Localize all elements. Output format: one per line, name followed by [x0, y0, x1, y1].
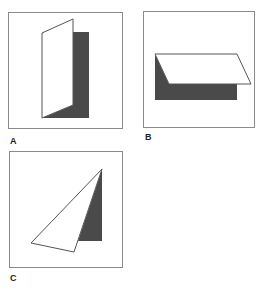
triangle-sheet-icon: [10, 152, 124, 269]
folded-card-vertical-icon: [9, 13, 124, 130]
panel-b-label: B: [145, 132, 152, 142]
panel-b: [143, 11, 255, 128]
panel-a: [8, 12, 123, 129]
folded-card-horizontal-icon: [144, 12, 256, 129]
panel-a-label: A: [10, 136, 17, 146]
panel-c-label: C: [10, 273, 17, 283]
panel-c: [9, 151, 123, 268]
